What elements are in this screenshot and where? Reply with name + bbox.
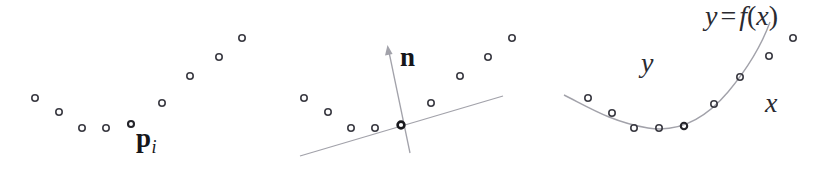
data-point-highlighted (128, 121, 134, 127)
data-point (656, 125, 662, 131)
normal-vector-arrowhead (385, 45, 393, 56)
data-point (348, 125, 354, 131)
equation-argument: x (756, 0, 768, 31)
equation-operator: = (720, 0, 736, 31)
axis-label-y: y (641, 49, 653, 77)
panel-curve-geometry (564, 22, 770, 129)
equation-lhs: y (705, 0, 717, 31)
point-label-pi-symbol: p (136, 123, 151, 153)
data-point (457, 73, 463, 79)
data-point (585, 95, 591, 101)
point-label-pi-subscript: i (152, 137, 157, 157)
equation-open-paren: ( (747, 0, 756, 31)
normal-vector-label: n (400, 44, 415, 71)
equation-close-paren: ) (769, 0, 778, 31)
function-equation-label: y=f(x) (705, 2, 778, 30)
data-point (509, 35, 515, 41)
data-point (301, 95, 307, 101)
data-point (609, 110, 615, 116)
three-panel-figure: pi n y x y=f(x) (0, 0, 837, 170)
data-point (187, 73, 193, 79)
data-point (56, 109, 62, 115)
data-point (239, 35, 245, 41)
data-point (216, 54, 222, 60)
data-point-highlighted (398, 122, 405, 129)
data-point (372, 125, 378, 131)
data-point (103, 125, 109, 131)
data-point (79, 125, 85, 131)
panel-points-markers (32, 35, 245, 131)
data-point (766, 53, 772, 59)
point-label-pi: pi (136, 125, 157, 156)
data-point (32, 95, 38, 101)
equation-function-name: f (739, 0, 747, 31)
data-point (790, 35, 796, 41)
data-point (159, 100, 165, 106)
data-point (485, 54, 491, 60)
data-point (325, 109, 331, 115)
data-point-highlighted (681, 123, 687, 129)
axis-label-x: x (765, 89, 777, 117)
fitted-function-curve (564, 22, 770, 129)
data-point (428, 100, 434, 106)
